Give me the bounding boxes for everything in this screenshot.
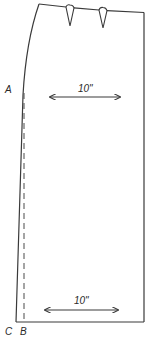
point-label-a: A — [4, 84, 12, 95]
waist-line — [39, 4, 144, 13]
side-seam-line — [16, 4, 39, 322]
darts — [66, 5, 107, 28]
point-label-b: B — [20, 326, 27, 337]
hem-measure-label: 10" — [74, 295, 89, 306]
hip-measure-label: 10" — [78, 83, 93, 94]
point-label-c: C — [5, 326, 13, 337]
pattern-outline — [16, 4, 144, 322]
dart-1 — [66, 5, 74, 26]
dart-2 — [99, 7, 107, 28]
pattern-diagram: 10" 10" A C B — [0, 0, 156, 341]
